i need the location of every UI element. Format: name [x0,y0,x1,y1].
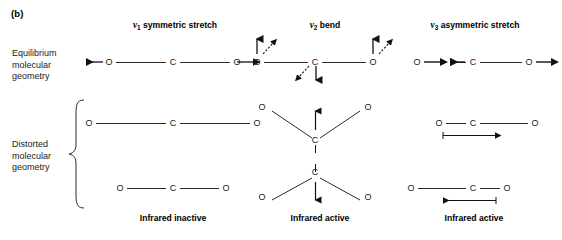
mode-name-nu1: symmetric stretch [143,20,217,30]
nu3-d2-atom-c: C [468,183,478,193]
row-label-distorted-line-1: Distorted [12,139,51,151]
mode-title-nu3: v3 asymmetric stretch [400,20,550,31]
row-label-distorted-line-3: geometry [12,162,51,174]
nu3-d1-bond-right [480,123,528,124]
row-label-equilibrium-line-1: Equilibrium [12,48,57,60]
nu3-d1-atom-c: C [468,118,478,128]
nu1-d2-bond-right [180,188,219,189]
nu3-d1-atom-o-right: O [530,118,540,128]
mode-subscript-nu1: 1 [137,24,141,31]
nu3-d2-atom-o-left: O [406,183,416,193]
nu1-d2-atom-o-right: O [221,183,231,193]
nu3-d2-atom-o-right: O [502,183,512,193]
nu1-d1-bond-right [180,123,250,124]
nu3-d2-bond-left [418,188,466,189]
nu3-d2-bond-right [480,188,500,189]
nu1-d2-atom-o-left: O [115,183,125,193]
activity-label-nu1: Infrared inactive [113,213,233,223]
mode-subscript-nu2: 2 [314,24,318,31]
nu2-d2-bonds-and-arrow [250,160,390,218]
row-label-equilibrium-line-2: molecular [12,60,57,72]
activity-label-nu2: Infrared active [262,213,378,223]
nu3-d1-bond-left [446,123,466,124]
nu3-eq-displacement-arrows [406,52,556,74]
row-label-equilibrium: Equilibrium molecular geometry [12,48,57,83]
nu1-d1-atom-o-left: O [84,118,94,128]
nu3-d1-atom-o-left: O [434,118,444,128]
mode-name-nu3: asymmetric stretch [441,20,520,30]
nu1-d2-bond-left [127,188,166,189]
row-label-distorted-line-2: molecular [12,151,51,163]
panel-label: (b) [11,8,24,19]
nu1-d1-bond-left [96,123,166,124]
nu2-eq-displacement-arrows [246,36,396,84]
mode-title-nu1: v1 symmetric stretch [110,20,240,31]
activity-label-nu3: Infrared active [416,213,532,223]
mode-name-nu2: bend [320,20,341,30]
nu1-eq-displacement-arrows [82,52,262,74]
nu3-d1-shift-arrow [440,128,540,142]
distorted-geometry-brace [66,98,88,210]
row-label-distorted: Distorted molecular geometry [12,139,51,174]
nu1-d2-atom-c: C [168,183,178,193]
row-label-equilibrium-line-3: geometry [12,71,57,83]
nu1-d1-atom-c: C [168,118,178,128]
nu2-d1-bonds-and-arrow [250,98,390,156]
co2-vibrational-modes-figure: (b) v1 symmetric stretch v2 bend v3 asym… [0,0,562,240]
mode-subscript-nu3: 3 [435,24,439,31]
mode-title-nu2: v2 bend [265,20,385,31]
nu3-d2-shift-arrow [440,193,540,207]
